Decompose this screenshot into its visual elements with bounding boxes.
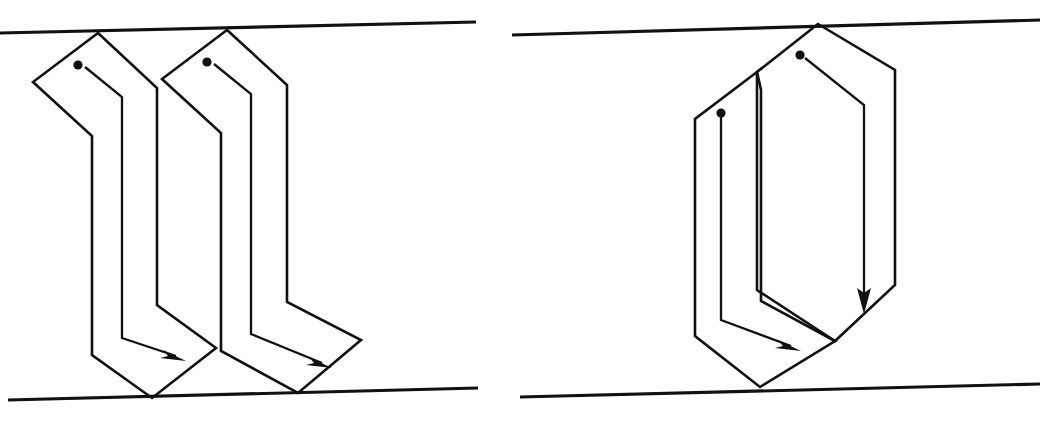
folded-hexagon-inner-outline xyxy=(695,72,835,387)
folded-ribbon-2-inner-chain xyxy=(214,64,322,363)
right-panel xyxy=(512,20,1040,397)
left-panel-top-boundary-line xyxy=(0,22,476,33)
folded-ribbon-2 xyxy=(162,30,361,393)
figure-root xyxy=(0,0,1044,421)
folded-hexagon-outer-chain xyxy=(805,58,864,300)
folded-hexagon-inner-chain-start-dot xyxy=(716,108,725,117)
folded-ribbon-1 xyxy=(33,33,216,398)
folded-hexagon-outer xyxy=(757,24,895,341)
folded-hexagon-outer-chain-start-dot xyxy=(795,50,804,59)
folded-hexagon-outer-outline xyxy=(757,24,895,341)
folded-ribbon-2-chain-start-dot xyxy=(202,57,211,66)
left-panel xyxy=(0,22,478,400)
folded-ribbon-1-outline xyxy=(33,33,216,398)
right-panel-bottom-boundary-line xyxy=(520,384,1040,397)
left-panel-bottom-boundary-line xyxy=(8,388,478,400)
folded-ribbon-1-inner-chain xyxy=(85,67,176,356)
folded-hexagon-inner xyxy=(695,72,835,387)
folded-ribbon-1-chain-start-dot xyxy=(73,60,82,69)
chain-folding-figure xyxy=(0,0,1044,421)
right-panel-top-boundary-line xyxy=(512,20,1040,35)
